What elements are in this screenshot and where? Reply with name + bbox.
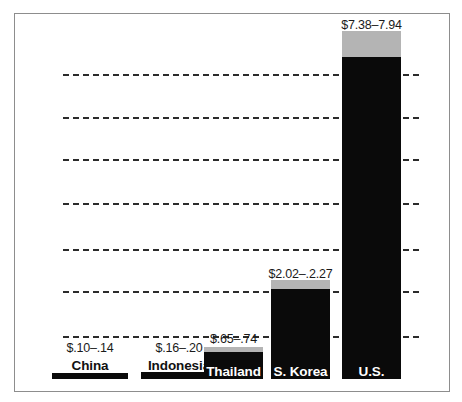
- category-label-u-s: U.S.: [359, 364, 385, 379]
- value-label-china: $.10–.14: [66, 341, 113, 355]
- category-label-china: China: [71, 358, 108, 373]
- bar-cap-s-korea: [271, 280, 330, 289]
- category-label-s-korea: S. Korea: [274, 364, 328, 379]
- bar-stack-china: [52, 373, 128, 379]
- bar-cap-u-s: [342, 31, 401, 57]
- bar-body-china: [52, 373, 128, 379]
- value-label-s-korea: $2.02–.2.27: [269, 267, 333, 281]
- bar-body-u-s: [342, 57, 401, 379]
- category-label-indonesia: Indonesia: [148, 358, 210, 373]
- category-label-thailand: Thailand: [206, 364, 261, 379]
- bar-china[interactable]: [52, 373, 128, 379]
- bar-chart: $.10–.14China$.16–.20Indonesia$.65–.74Th…: [0, 0, 462, 402]
- value-label-u-s: $7.38–7.94: [341, 18, 402, 32]
- value-label-thailand: $.65–.74: [210, 332, 257, 346]
- value-label-indonesia: $.16–.20: [155, 341, 202, 355]
- bar-u-s[interactable]: [342, 31, 401, 379]
- plot-frame: $.10–.14China$.16–.20Indonesia$.65–.74Th…: [14, 13, 450, 392]
- bar-stack-u-s: [342, 31, 401, 379]
